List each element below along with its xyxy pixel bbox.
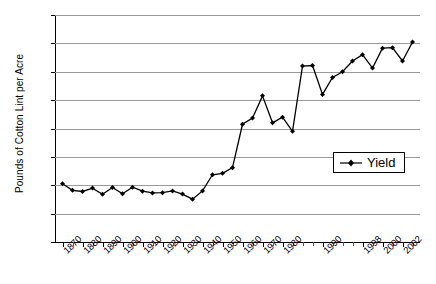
series-yield: [55, 15, 420, 242]
data-point: [180, 192, 185, 197]
data-point: [270, 120, 275, 125]
cotton-yield-line-chart: Pounds of Cotton Lint per Acre 010020030…: [0, 0, 436, 284]
data-point: [80, 189, 85, 194]
x-tick: [353, 242, 354, 246]
x-tick: [343, 242, 344, 246]
data-point: [140, 189, 145, 194]
plot-area: 0100200300400500600700800 18701880189019…: [55, 15, 420, 242]
data-point: [160, 190, 165, 195]
data-point: [380, 46, 385, 51]
legend-label: Yield: [367, 156, 395, 169]
data-point: [170, 188, 175, 193]
data-point: [150, 190, 155, 195]
data-point: [410, 39, 415, 44]
data-point: [230, 165, 235, 170]
y-axis-title: Pounds of Cotton Lint per Acre: [14, 9, 25, 239]
y-tick-0: [51, 242, 55, 243]
legend[interactable]: Yield: [333, 152, 405, 173]
data-point: [260, 93, 265, 98]
x-tick: [313, 242, 314, 246]
x-tick: [303, 242, 304, 246]
data-point: [310, 63, 315, 68]
series-line: [63, 42, 413, 199]
legend-marker-icon: [340, 158, 362, 168]
data-point: [220, 171, 225, 176]
data-point: [300, 64, 305, 69]
